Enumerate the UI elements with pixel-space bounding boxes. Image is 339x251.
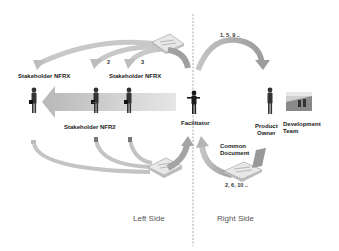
arrow-doc-to-facilitator-bottom [168,145,187,168]
facilitator-label: Facilitator [181,120,210,127]
top-arcs [40,42,165,63]
arrow-head [196,136,209,148]
common-document-label-line1: Common [220,143,249,150]
stakeholder-label-nfr2: Stakeholder NFR2 [64,124,116,131]
sequence-bottom: 2, 6, 10 .. [225,182,248,188]
development-team-label-line1: Development [283,121,321,128]
left-side-label: Left Side [133,214,165,223]
right-side-label: Right Side [217,214,254,223]
development-team-photo [286,92,312,111]
bottom-arcs [34,140,152,172]
bottom-arc-tails [31,137,132,144]
development-team-label-line2: Team [283,128,321,135]
arrow-facilitator-to-product-owner [198,40,262,70]
arrow-doc-to-facilitator-top [168,50,188,68]
development-team-label: Development Team [283,121,321,135]
arrow-number-3: 3 [141,59,144,65]
product-owner-figure [268,88,273,114]
arrow-head [255,60,270,70]
arrow-number-2: 2 [107,59,110,65]
product-owner-label: Product Owner [255,123,278,137]
stakeholder-label-nfr1: Stakeholder NFRX [109,73,161,80]
sequence-top: 1, 5, 9 .. [220,32,240,38]
common-document-label: Common Document [220,143,249,157]
product-owner-label-line2: Owner [255,130,278,137]
stakeholder-figure-nfrx [29,88,37,113]
stakeholder-label-nfrx: Stakeholder NFRX [18,73,70,80]
facilitator-figure [187,91,200,114]
big-left-arrow [42,86,176,118]
arrow-head [181,136,194,146]
big-arrow-ellipsis: ... [92,98,97,104]
common-document-label-line2: Document [220,150,249,157]
product-owner-label-line1: Product [255,123,278,130]
